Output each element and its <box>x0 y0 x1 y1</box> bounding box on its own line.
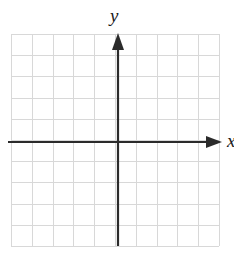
coordinate-plane: y x <box>0 0 234 257</box>
y-axis-label: y <box>110 6 118 25</box>
y-axis-arrowhead <box>112 33 124 50</box>
grid-lines <box>11 34 220 247</box>
coordinate-grid-svg <box>0 0 234 257</box>
x-axis-label: x <box>227 131 234 150</box>
y-axis <box>112 33 124 246</box>
